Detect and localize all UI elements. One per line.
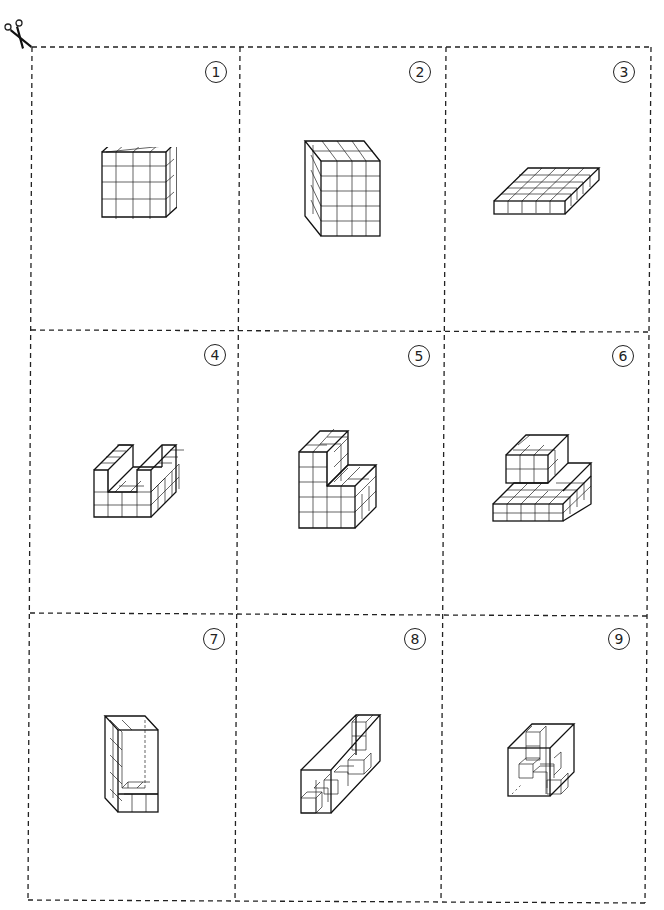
card-number-badge: 5 [408,345,430,367]
cut-out-sheet: 1 2 [0,0,664,910]
card-1[interactable]: 1 [32,47,240,330]
slab-figure [492,161,604,217]
card-number-badge: 3 [613,61,635,83]
l-step-figure [294,419,394,531]
card-number-badge: 4 [204,344,226,366]
card-6[interactable]: 6 [445,331,649,615]
card-number-badge: 1 [205,61,227,83]
open-box-figure [100,710,166,814]
card-8[interactable]: 8 [236,614,442,902]
box-tower-figure [504,720,580,800]
card-number-badge: 8 [404,628,426,650]
card-number-badge: 9 [608,628,630,650]
card-number-badge: 2 [409,61,431,83]
two-tier-figure [490,425,608,525]
cuboid-figure [300,139,390,239]
card-number-badge: 6 [612,345,634,367]
card-5[interactable]: 5 [239,331,445,615]
long-prism-figure [296,710,384,816]
card-7[interactable]: 7 [30,614,237,902]
card-3[interactable]: 3 [446,47,651,330]
card-4[interactable]: 4 [31,330,239,614]
card-2[interactable]: 2 [240,47,446,330]
u-block-figure [86,430,186,520]
cube-figure [97,147,177,227]
card-number-badge: 7 [203,628,225,650]
card-9[interactable]: 9 [442,614,647,903]
